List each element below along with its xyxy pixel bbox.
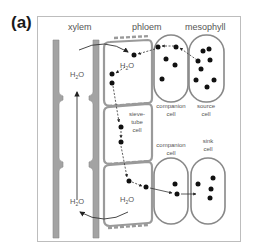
companion-cell-bottom (154, 158, 188, 224)
sink-label-2: cell (203, 146, 212, 152)
header-mesophyll: mesophyll (185, 22, 226, 32)
h2o-label-phloem-bottom: H2O (120, 195, 134, 205)
h2o-label-xylem-top: H2O (70, 70, 84, 80)
h2o-label-phloem-top: H2O (120, 61, 134, 71)
sieve-tube-label-3: cell (132, 127, 141, 133)
sink-label-1: sink (203, 138, 215, 144)
companion-label-bottom-1: companion (156, 142, 185, 148)
source-label-2: cell (201, 111, 210, 117)
source-cell (189, 35, 224, 102)
xylem-phloem-diagram: xylem phloem mesophyll (0, 0, 254, 251)
header-xylem: xylem (68, 22, 92, 32)
unload-arrows (150, 188, 196, 194)
sieve-tube-label-2: tube (131, 119, 143, 125)
sieve-tube-label-1: sieve- (129, 111, 145, 117)
companion-label-bottom-2: cell (166, 150, 175, 156)
sink-cell (191, 158, 225, 224)
companion-label-top-1: companion (156, 103, 185, 109)
source-label-1: source (197, 103, 216, 109)
companion-label-top-2: cell (166, 111, 175, 117)
header-phloem: phloem (132, 22, 162, 32)
xylem-vessel (53, 40, 99, 238)
